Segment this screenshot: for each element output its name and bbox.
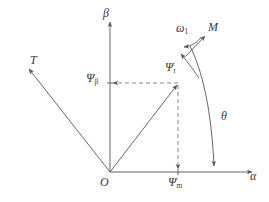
flux-beta-subscript: β	[94, 77, 98, 86]
torque-vector-label: T	[30, 54, 37, 66]
omega1-arc	[184, 37, 201, 47]
theta-arc	[190, 46, 214, 166]
flux-alpha-label: Ψm	[168, 176, 182, 189]
alpha-axis-label: α	[250, 170, 256, 182]
flux-beta-label: Ψβ	[86, 72, 98, 85]
angle-theta-label: θ	[221, 110, 227, 122]
flux-vector-line	[110, 85, 177, 172]
vector-diagram-figure: β α O T M ω1 θ Ψr Ψβ Ψm	[0, 0, 269, 202]
moment-vector-label: M	[208, 21, 218, 33]
beta-axis-label: β	[103, 7, 109, 19]
flux-vector-subscript: r	[173, 66, 175, 75]
angular-velocity-label: ω1	[176, 22, 188, 35]
theta-arc-upper-arrow	[181, 54, 199, 78]
flux-vector-label: Ψr	[165, 61, 176, 74]
angular-velocity-subscript: 1	[184, 27, 188, 36]
origin-label: O	[100, 176, 109, 188]
diagram-canvas	[0, 0, 269, 202]
flux-alpha-subscript: m	[176, 181, 182, 190]
